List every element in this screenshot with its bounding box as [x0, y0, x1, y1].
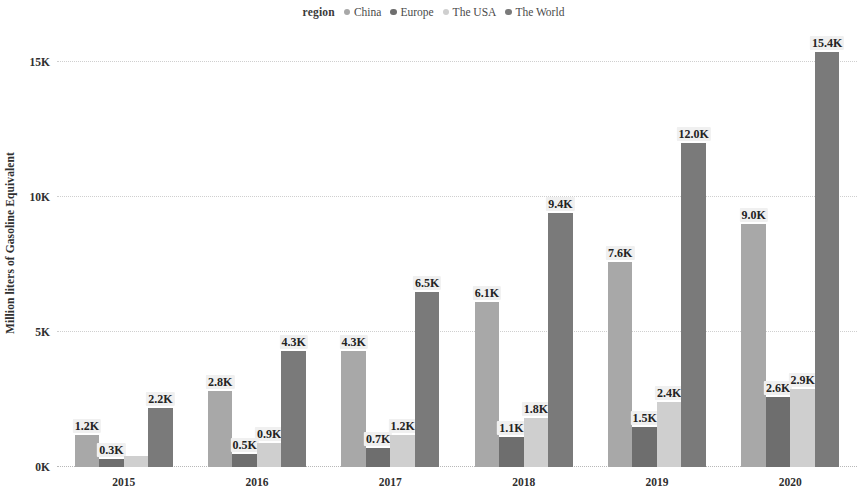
- x-tick-label-2016: 2016: [245, 476, 268, 486]
- bar-the-world-2015[interactable]: 2.2K: [148, 408, 173, 467]
- bar-slot: 4.3K: [281, 30, 306, 467]
- bar-value-label: 2.4K: [655, 386, 683, 400]
- legend-label-the-world: The World: [515, 6, 564, 18]
- bar-china-2015[interactable]: 1.2K: [75, 435, 100, 467]
- bar-value-label: 1.1K: [497, 421, 525, 435]
- bar-china-2019[interactable]: 7.6K: [608, 262, 633, 467]
- bar-group-2015: 1.2K0.3K2.2K2015: [57, 30, 190, 467]
- bar-slot: 1.1K: [499, 30, 524, 467]
- bar-china-2016[interactable]: 2.8K: [208, 391, 233, 467]
- x-tick-label-2015: 2015: [112, 476, 135, 486]
- legend-swatch-europe: [390, 9, 397, 16]
- plot-area: 0K5K10K15K1.2K0.3K2.2K20152.8K0.5K0.9K4.…: [57, 30, 857, 467]
- bar-value-label: 0.3K: [97, 443, 125, 457]
- y-tick-label-10K: 10K: [30, 191, 50, 203]
- bar-the-usa-2018[interactable]: 1.8K: [524, 418, 549, 467]
- bar-the-world-2020[interactable]: 15.4K: [815, 52, 840, 467]
- bar-europe-2018[interactable]: 1.1K: [499, 437, 524, 467]
- bar-slot: 6.1K: [475, 30, 500, 467]
- bar-slot: 2.8K: [208, 30, 233, 467]
- bar-the-usa-2015[interactable]: [124, 456, 149, 467]
- bar-the-usa-2017[interactable]: 1.2K: [390, 435, 415, 467]
- bar-slot: 9.4K: [548, 30, 573, 467]
- bar-the-usa-2019[interactable]: 2.4K: [657, 402, 682, 467]
- bar-china-2017[interactable]: 4.3K: [341, 351, 366, 467]
- bar-slot: 0.9K: [257, 30, 282, 467]
- bar-group-2017: 4.3K0.7K1.2K6.5K2017: [324, 30, 457, 467]
- bar-slot: 7.6K: [608, 30, 633, 467]
- bar-slot: [124, 30, 149, 467]
- bar-europe-2015[interactable]: 0.3K: [99, 459, 124, 467]
- bar-slot: 2.4K: [657, 30, 682, 467]
- bar-value-label: 4.3K: [339, 335, 367, 349]
- bar-slot: 6.5K: [415, 30, 440, 467]
- bar-slot: 0.7K: [366, 30, 391, 467]
- legend-label-the-usa: The USA: [453, 6, 497, 18]
- bar-the-world-2017[interactable]: 6.5K: [415, 292, 440, 467]
- bar-value-label: 1.2K: [73, 419, 101, 433]
- bar-value-label: 1.5K: [631, 411, 659, 425]
- bar-group-2018: 6.1K1.1K1.8K9.4K2018: [457, 30, 590, 467]
- bar-the-world-2018[interactable]: 9.4K: [548, 213, 573, 467]
- bar-the-usa-2020[interactable]: 2.9K: [790, 389, 815, 467]
- legend-entry-china[interactable]: China: [344, 6, 381, 18]
- bar-group-2016: 2.8K0.5K0.9K4.3K2016: [190, 30, 323, 467]
- bar-value-label: 4.3K: [280, 335, 308, 349]
- bar-group-2019: 7.6K1.5K2.4K12.0K2019: [590, 30, 723, 467]
- bar-value-label: 1.8K: [522, 402, 550, 416]
- chart-legend: region China Europe The USA The World: [0, 3, 867, 21]
- bar-slot: 9.0K: [741, 30, 766, 467]
- legend-title: region: [303, 6, 335, 18]
- legend-swatch-china: [344, 9, 351, 16]
- bar-the-usa-2016[interactable]: 0.9K: [257, 443, 282, 467]
- y-tick-label-15K: 15K: [30, 56, 50, 68]
- bar-slot: 1.2K: [75, 30, 100, 467]
- y-tick-label-0K: 0K: [35, 461, 50, 473]
- bar-slot: 4.3K: [341, 30, 366, 467]
- bar-the-world-2016[interactable]: 4.3K: [281, 351, 306, 467]
- bar-slot: 2.6K: [766, 30, 791, 467]
- bar-value-label: 2.8K: [206, 375, 234, 389]
- bar-europe-2020[interactable]: 2.6K: [766, 397, 791, 467]
- bar-europe-2016[interactable]: 0.5K: [232, 454, 257, 467]
- x-tick-label-2020: 2020: [779, 476, 802, 486]
- x-tick-label-2017: 2017: [379, 476, 402, 486]
- legend-label-china: China: [354, 6, 381, 18]
- bar-slot: 12.0K: [681, 30, 706, 467]
- y-axis-title: Million liters of Gasoline Equivalent: [0, 0, 20, 486]
- legend-entry-europe[interactable]: Europe: [390, 6, 433, 18]
- bar-group-2020: 9.0K2.6K2.9K15.4K2020: [724, 30, 857, 467]
- bar-slot: 1.2K: [390, 30, 415, 467]
- legend-swatch-the-world: [505, 9, 512, 16]
- bar-value-label: 0.7K: [364, 432, 392, 446]
- legend-label-europe: Europe: [400, 6, 433, 18]
- bar-value-label: 6.1K: [473, 286, 501, 300]
- bar-europe-2019[interactable]: 1.5K: [632, 427, 657, 467]
- bar-value-label: 12.0K: [677, 127, 711, 141]
- bar-slot: 2.9K: [790, 30, 815, 467]
- bar-the-world-2019[interactable]: 12.0K: [681, 143, 706, 467]
- legend-entry-the-world[interactable]: The World: [505, 6, 564, 18]
- bar-slot: 15.4K: [815, 30, 840, 467]
- bar-slot: 1.8K: [524, 30, 549, 467]
- bar-slot: 0.3K: [99, 30, 124, 467]
- bar-value-label: 2.2K: [146, 392, 174, 406]
- bar-europe-2017[interactable]: 0.7K: [366, 448, 391, 467]
- bar-china-2018[interactable]: 6.1K: [475, 302, 500, 467]
- bar-slot: 1.5K: [632, 30, 657, 467]
- bar-value-label: 6.5K: [413, 276, 441, 290]
- x-tick-label-2018: 2018: [512, 476, 535, 486]
- legend-swatch-the-usa: [443, 9, 450, 16]
- bar-value-label: 7.6K: [606, 246, 634, 260]
- bar-chart: region China Europe The USA The World Mi…: [0, 0, 867, 486]
- bar-china-2020[interactable]: 9.0K: [741, 224, 766, 467]
- y-tick-label-5K: 5K: [35, 326, 50, 338]
- bar-value-label: 2.9K: [788, 373, 816, 387]
- bar-value-label: 0.9K: [255, 427, 283, 441]
- legend-entry-the-usa[interactable]: The USA: [443, 6, 497, 18]
- bar-slot: 2.2K: [148, 30, 173, 467]
- bar-slot: 0.5K: [232, 30, 257, 467]
- x-tick-label-2019: 2019: [645, 476, 668, 486]
- bar-value-label: 9.4K: [546, 197, 574, 211]
- bar-value-label: 1.2K: [388, 419, 416, 433]
